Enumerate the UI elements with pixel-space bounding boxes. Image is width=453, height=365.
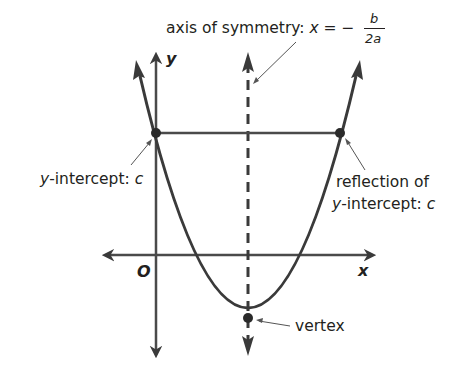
y-intercept-label: y-intercept: c [40,172,143,188]
reflection-label-line1: reflection of [336,175,429,191]
fraction-denominator: 2a [365,32,381,45]
reflection-point [335,128,345,138]
fraction-bar [364,28,385,29]
vertex-leader [259,321,290,326]
reflection-text: reflection of [336,173,429,191]
y-intercept-leader [131,142,150,165]
y-intercept-text: -intercept: [49,170,135,188]
vertex-label: vertex [295,319,345,335]
y-intercept-const: c [135,170,144,188]
axis-of-symmetry-leader [255,42,296,82]
vertex-point [243,313,253,323]
y-intercept-var: y [40,170,49,188]
axis-of-symmetry-equals: = − [319,19,355,37]
y-axis-label: y [166,51,176,67]
axis-of-symmetry-variable: x [309,19,318,37]
axis-of-symmetry-text: axis of symmetry: [166,19,309,37]
reflection-var: y [332,195,341,213]
reflection-intercept-text: -intercept: [341,195,427,213]
axis-of-symmetry-label: axis of symmetry: x = − [166,21,355,37]
origin-label: O [137,264,151,280]
fraction-numerator: b [370,12,378,25]
x-axis-label: x [358,263,368,279]
y-intercept-point [151,128,161,138]
reflection-const: c [427,195,436,213]
reflection-leader [347,141,365,170]
reflection-label-line2: y-intercept: c [332,197,435,213]
